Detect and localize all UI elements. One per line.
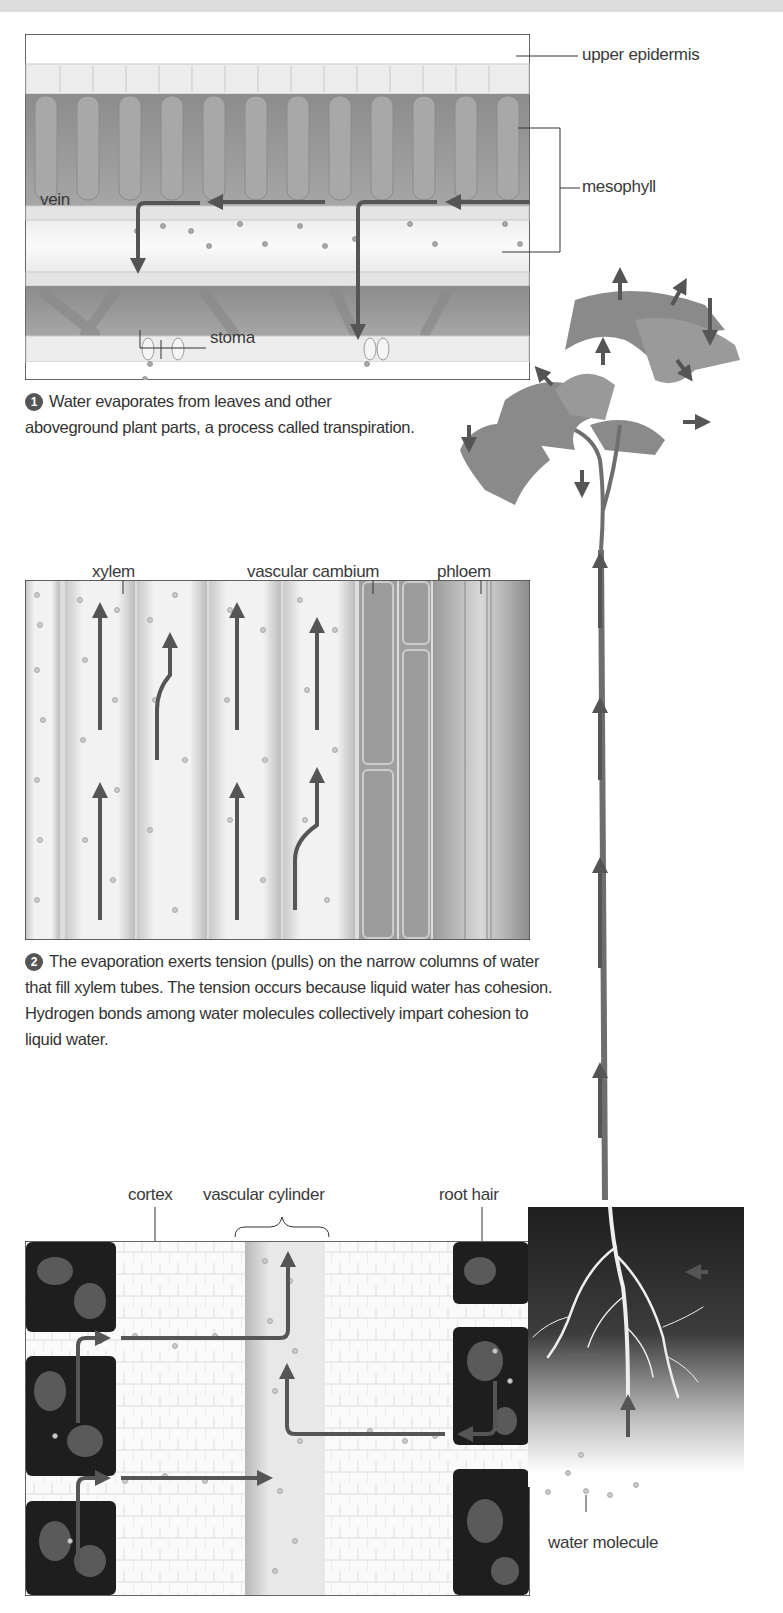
step-1-text: Water evaporates from leaves and other a…: [25, 392, 415, 436]
step-1-number: 1: [25, 393, 43, 411]
label-root-hair: root hair: [439, 1185, 499, 1205]
label-cortex: cortex: [128, 1185, 173, 1205]
label-stoma: stoma: [210, 328, 255, 348]
xylem-section: [25, 580, 530, 940]
label-water-molecule: water molecule: [548, 1533, 658, 1553]
top-strip: [0, 0, 783, 12]
stoma-pointer: [138, 330, 208, 352]
label-upper-epidermis: upper epidermis: [582, 45, 699, 65]
leaf-label-lines: [500, 40, 600, 260]
label-vein: vein: [40, 190, 70, 210]
label-mesophyll: mesophyll: [582, 177, 656, 197]
label-vascular-cambium: vascular cambium: [247, 562, 379, 582]
step-2-text: The evaporation exerts tension (pulls) o…: [25, 952, 552, 1048]
root-cross-section: [25, 1241, 530, 1596]
step-1-caption: 1Water evaporates from leaves and other …: [25, 388, 425, 440]
stem-label-lines: [25, 580, 530, 610]
soil-root-panel: [528, 1207, 744, 1567]
step-2-number: 2: [25, 953, 43, 971]
label-xylem: xylem: [92, 562, 135, 582]
label-phloem: phloem: [437, 562, 491, 582]
label-vascular-cylinder: vascular cylinder: [203, 1185, 325, 1205]
step-2-caption: 2The evaporation exerts tension (pulls) …: [25, 948, 560, 1052]
